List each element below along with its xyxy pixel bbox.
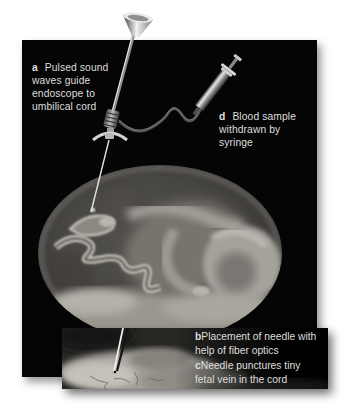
endoscope-funnel [122,11,153,37]
label-a: aPulsed sound waves guide endoscope to u… [32,61,108,113]
label-line: waves guide [32,74,108,87]
label-c: cNeedle punctures tiny fetal vein in the… [195,359,316,386]
label-d-key: d [219,111,225,122]
inset-captions: bPlacement of needle with help of fiber … [195,330,316,386]
label-line: endoscope to [32,87,108,100]
label-line: dBlood sample [219,110,296,123]
label-line: bPlacement of needle with [195,330,316,344]
label-a-key: a [32,62,38,73]
label-line: aPulsed sound [32,61,108,74]
label-line: fetal vein in the cord [195,373,316,387]
label-line: help of fiber optics [195,344,316,358]
label-line: umbilical cord [32,100,108,113]
label-line: cNeedle punctures tiny [195,359,316,373]
label-line: syringe [219,136,296,149]
inset-closeup-panel: bPlacement of needle with help of fiber … [62,328,328,389]
label-d: dBlood sample withdrawn by syringe [219,110,296,149]
figure-canvas: aPulsed sound waves guide endoscope to u… [0,0,345,413]
label-b: bPlacement of needle with help of fiber … [195,330,316,357]
label-line: withdrawn by [219,123,296,136]
